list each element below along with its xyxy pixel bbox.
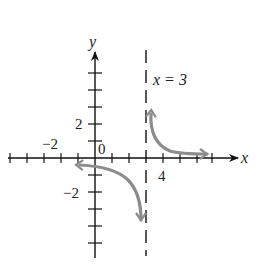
y-axis-label: y xyxy=(87,33,97,51)
x-axis-label: x xyxy=(240,149,248,166)
x-tick-label-4: 4 xyxy=(158,168,166,184)
y-tick-label-neg2: −2 xyxy=(63,185,79,201)
asymptote-label: x = 3 xyxy=(152,71,187,88)
graph: y x 0 −2 4 2 −2 x = 3 xyxy=(0,0,259,265)
origin-label: 0 xyxy=(98,141,106,157)
curve-right-branch xyxy=(151,114,207,154)
y-tick-label-2: 2 xyxy=(75,116,83,132)
x-tick-label-neg2: −2 xyxy=(42,136,58,152)
